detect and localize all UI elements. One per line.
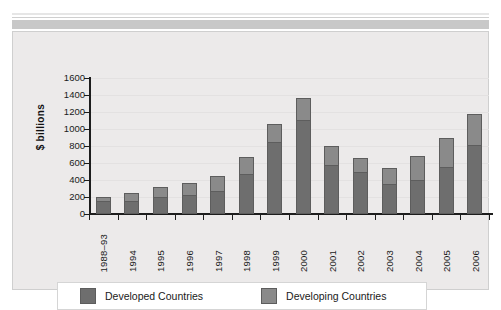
bar-segment-developing: [267, 124, 282, 142]
bar-group: [210, 176, 225, 214]
x-tick-mark: [175, 215, 176, 220]
bar-segment-developed: [210, 191, 225, 214]
bar-segment-developing: [239, 157, 254, 173]
x-tick-mark: [403, 215, 404, 220]
x-tick-mark: [232, 215, 233, 220]
bar-segment-developed: [96, 201, 111, 214]
bar-segment-developed: [439, 167, 454, 214]
bar-group: [439, 138, 454, 214]
bar-group: [267, 124, 282, 214]
y-tick-label: 200: [69, 192, 85, 202]
x-tick-mark: [89, 215, 90, 220]
x-tick-label: 2000: [298, 250, 309, 272]
bar-segment-developed: [410, 180, 425, 214]
x-tick-label: 2005: [441, 250, 452, 272]
x-tick-mark: [346, 215, 347, 220]
bar-segment-developed: [239, 174, 254, 214]
x-axis-ticks: [89, 215, 493, 220]
bar-group: [239, 157, 254, 214]
bar-group: [182, 183, 197, 214]
bar-group: [467, 114, 482, 214]
y-axis-title: $ billions: [35, 104, 46, 150]
bar-group: [353, 158, 368, 215]
legend-label-developing: Developing Countries: [286, 290, 386, 302]
bar-segment-developing: [353, 158, 368, 172]
x-tick-mark: [260, 215, 261, 220]
chart-legend: Developed Countries Developing Countries: [57, 282, 427, 310]
x-tick-mark: [489, 215, 490, 220]
bar-segment-developed: [182, 195, 197, 214]
y-tick-label: 600: [69, 158, 85, 168]
developed-countries-swatch: [80, 288, 96, 304]
x-tick-label: 1995: [155, 250, 166, 272]
bar-group: [382, 168, 397, 214]
bar-group: [124, 193, 139, 214]
y-tick-label: 1600: [64, 73, 85, 83]
bar-segment-developed: [124, 201, 139, 214]
bar-group: [410, 156, 425, 214]
bar-segment-developed: [296, 120, 311, 214]
bar-segment-developing: [439, 138, 454, 166]
x-tick-mark: [118, 215, 119, 220]
bar-segment-developing: [467, 114, 482, 145]
bar-group: [96, 197, 111, 214]
bar-segment-developing: [210, 176, 225, 191]
y-tick-label: 1200: [64, 107, 85, 117]
legend-label-developed: Developed Countries: [105, 290, 203, 302]
bar-segment-developed: [382, 184, 397, 214]
y-tick-label: 400: [69, 175, 85, 185]
x-tick-mark: [289, 215, 290, 220]
x-tick-label: 1997: [213, 250, 224, 272]
top-rule-upper: [12, 13, 489, 15]
x-tick-mark: [432, 215, 433, 220]
bar-segment-developing: [182, 183, 197, 195]
x-tick-label: 2003: [384, 250, 395, 272]
y-tick-label: 800: [69, 141, 85, 151]
bar-segment-developing: [153, 187, 168, 197]
bar-segment-developing: [124, 193, 139, 202]
bar-series-container: [89, 78, 489, 214]
top-rule-lower: [12, 17, 489, 18]
x-tick-mark: [460, 215, 461, 220]
bar-group: [324, 146, 339, 214]
bar-segment-developing: [410, 156, 425, 179]
bar-segment-developed: [353, 172, 368, 214]
developing-countries-swatch: [261, 288, 277, 304]
x-axis-tick-labels: 1988–93199419951996199719981999200020012…: [89, 222, 493, 272]
bar-segment-developing: [382, 168, 397, 184]
chart-panel: $ billions 02004006008001000120014001600…: [12, 31, 489, 290]
x-tick-label: 1996: [184, 250, 195, 272]
x-tick-mark: [375, 215, 376, 220]
bar-segment-developing: [296, 98, 311, 121]
top-gray-band: [12, 20, 489, 29]
y-tick-label: 1400: [64, 90, 85, 100]
x-tick-mark: [146, 215, 147, 220]
legend-item-developed: Developed Countries: [80, 288, 203, 304]
legend-item-developing: Developing Countries: [261, 288, 386, 304]
x-tick-mark: [318, 215, 319, 220]
x-tick-label: 1998: [241, 250, 252, 272]
bar-group: [153, 187, 168, 214]
y-tick-label: 1000: [64, 124, 85, 134]
x-tick-label: 2006: [470, 250, 481, 272]
bar-segment-developing: [324, 146, 339, 164]
x-tick-label: 1988–93: [98, 234, 109, 272]
x-tick-mark: [203, 215, 204, 220]
bar-group: [296, 98, 311, 214]
x-tick-label: 1994: [127, 250, 138, 272]
x-tick-label: 2002: [355, 250, 366, 272]
bar-segment-developed: [153, 197, 168, 214]
bar-segment-developed: [467, 145, 482, 214]
x-tick-label: 2001: [327, 250, 338, 272]
bar-segment-developed: [324, 165, 339, 214]
x-tick-label: 1999: [270, 250, 281, 272]
x-tick-label: 2004: [413, 250, 424, 272]
y-axis-tick-labels: 02004006008001000120014001600: [53, 78, 85, 214]
bar-segment-developed: [267, 142, 282, 214]
